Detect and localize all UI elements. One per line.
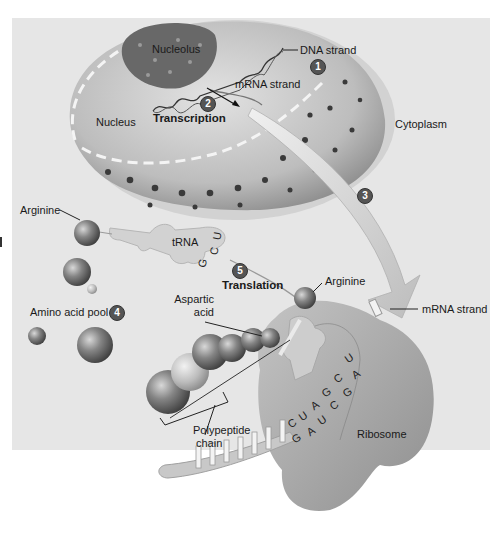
ribosome-shape <box>258 301 434 511</box>
amino-acid-ball <box>63 258 91 286</box>
aspartic-acid-ball <box>260 328 280 348</box>
arginine-pool-label: Arginine <box>20 204 60 217</box>
trna-label: tRNA <box>172 236 198 249</box>
polypeptide-chain-label-line2: chain <box>196 437 222 450</box>
protein-synthesis-diagram: Nucleolus Nucleus Cytoplasm Ribosome DNA… <box>0 0 495 537</box>
step-badge-3: 3 <box>357 188 373 204</box>
nucleolus-label: Nucleolus <box>152 43 200 56</box>
arginine-ribosome-leader <box>313 283 322 292</box>
arginine-ball <box>74 220 100 246</box>
step-badge-2: 2 <box>200 96 216 112</box>
nucleus-label: Nucleus <box>96 116 136 129</box>
mrna-strand-cytoplasm-label: mRNA strand <box>422 303 487 316</box>
arginine-ribosome-ball <box>294 287 316 309</box>
cytoplasm-label: Cytoplasm <box>395 118 447 131</box>
amino-acid-ball-small <box>87 284 97 294</box>
trna-anticodon-base: G <box>196 258 209 269</box>
aspartic-acid-label-line2: acid <box>184 306 214 319</box>
transcription-label: Transcription <box>153 112 226 125</box>
step-badge-4: 4 <box>109 305 125 321</box>
amino-acid-ball <box>77 327 113 363</box>
dna-strand-label: DNA strand <box>300 44 356 57</box>
polypeptide-chain-label-line1: Polypeptide <box>193 424 251 437</box>
aspartic-acid-label-line1: Aspartic <box>174 293 214 306</box>
amino-acid-ball <box>28 327 46 345</box>
trna-shape <box>109 224 225 263</box>
ribosome-label: Ribosome <box>357 428 407 441</box>
step-badge-1: 1 <box>310 59 326 75</box>
step-badge-5: 5 <box>232 263 248 279</box>
arginine-ribosome-label: Arginine <box>325 275 365 288</box>
translation-label: Translation <box>222 279 283 292</box>
amino-acid-pool-label: Amino acid pool <box>30 306 108 319</box>
arginine-pool-leader <box>60 210 80 220</box>
mrna-strand-nucleus-label: mRNA strand <box>235 78 300 91</box>
